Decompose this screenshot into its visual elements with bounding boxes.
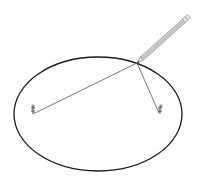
ellipse-diagram (0, 0, 199, 180)
string-left (35, 63, 137, 113)
string-right (137, 63, 159, 113)
pencil-icon (135, 14, 190, 64)
ellipse-outline (14, 57, 182, 171)
